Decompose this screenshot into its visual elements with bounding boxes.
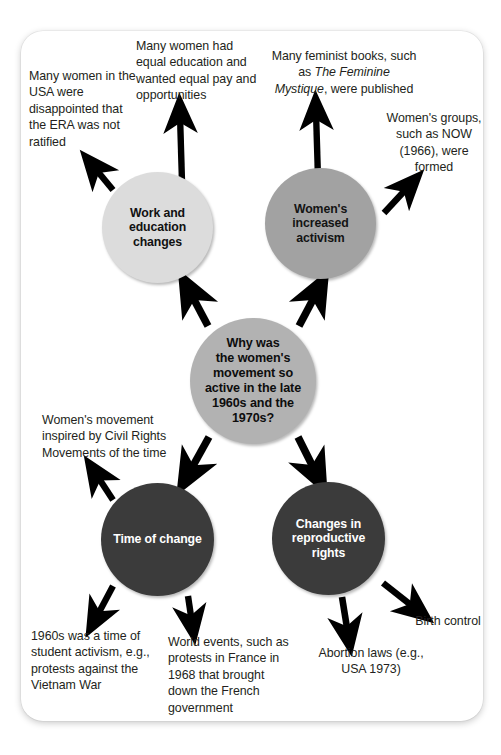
note-feminist-books-after: , were published	[324, 82, 413, 96]
node-central-question[interactable]: Why wasthe women'smovement soactive in t…	[190, 318, 316, 444]
note-world-events: World events, such as protests in France…	[168, 634, 296, 716]
node-reproductive-rights[interactable]: Changes inreproductiverights	[272, 482, 385, 595]
node-time-of-change-label: Time of change	[109, 532, 206, 547]
note-feminist-books: Many feminist books, such as The Feminin…	[271, 48, 417, 97]
node-work-education[interactable]: Work andeducation changes	[102, 172, 213, 283]
note-civil-rights: Women's movement inspired by Civil Right…	[42, 412, 194, 461]
node-womens-activism-label: Women's increasedactivism	[265, 202, 376, 246]
note-equal-pay: Many women had equal education and wante…	[136, 38, 266, 104]
node-womens-activism[interactable]: Women's increasedactivism	[265, 168, 376, 279]
node-work-education-label: Work andeducation changes	[102, 206, 213, 250]
note-abortion-laws: Abortion laws (e.g., USA 1973)	[313, 645, 429, 678]
note-student-activism: 1960s was a time of student activism, e.…	[31, 628, 155, 694]
node-central-question-label: Why wasthe women'smovement soactive in t…	[201, 336, 305, 425]
node-reproductive-rights-label: Changes inreproductiverights	[288, 517, 369, 561]
note-era: Many women in the USA were disappointed …	[29, 68, 141, 150]
note-birth-control: Birth control	[414, 613, 482, 629]
diagram-canvas: Work andeducation changes Women's increa…	[0, 0, 501, 755]
node-time-of-change[interactable]: Time of change	[101, 483, 214, 596]
note-now-groups: Women's groups, such as NOW (1966), were…	[382, 110, 486, 176]
